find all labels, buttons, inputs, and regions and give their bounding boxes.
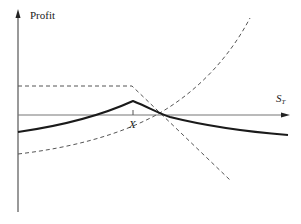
y-axis-label: Profit	[30, 9, 55, 21]
payoff-diagram	[0, 0, 301, 224]
x-axis-label: ST	[276, 92, 285, 106]
x-axis-arrow-icon	[281, 113, 290, 118]
x-axis-label-subscript: T	[282, 98, 286, 106]
dashed-convex-curve	[18, 18, 250, 154]
y-axis-arrow-icon	[16, 9, 21, 18]
dashed-flat-then-falling-line	[18, 86, 230, 180]
strike-price-label: X	[129, 118, 136, 130]
